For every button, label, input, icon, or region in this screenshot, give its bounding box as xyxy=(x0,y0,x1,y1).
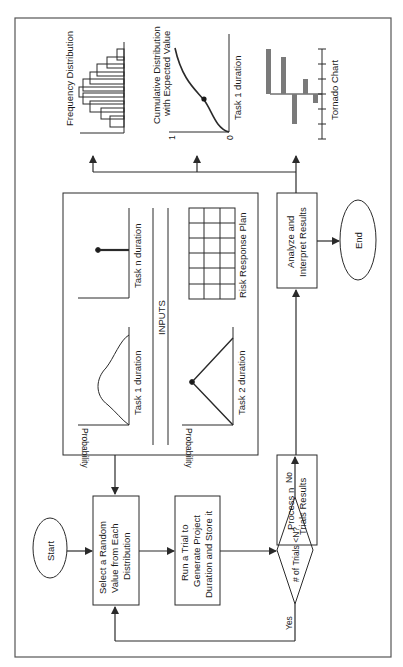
task-n-label: Task n duration xyxy=(132,224,143,288)
start-label: Start xyxy=(45,541,56,561)
task-2-probability-label: Probability xyxy=(184,428,194,468)
expected-value-point xyxy=(201,96,206,101)
task-2-chart xyxy=(182,327,233,425)
run-label-line1: Run a Trial to xyxy=(179,525,190,582)
task-1-probability-label: Probability xyxy=(80,428,90,468)
cumulative-y-max: 1 xyxy=(167,135,177,140)
inputs-title: INPUTS xyxy=(156,300,167,335)
task-n-chart xyxy=(78,208,129,298)
task-2-label: Task 2 duration xyxy=(236,351,247,415)
select-label-line1: Select a Random xyxy=(97,521,108,594)
frequency-distribution-label: Frequency Distribution xyxy=(64,31,75,126)
cumulative-distribution-chart xyxy=(169,34,229,132)
run-label-line2: Generate Project xyxy=(191,515,202,587)
process-label-line2: Trials Results xyxy=(297,478,308,535)
cumulative-y-min: 0 xyxy=(225,135,235,140)
select-label-line3: Distribution xyxy=(121,532,132,580)
analyze-label-line2: Interpret Results xyxy=(297,207,308,277)
select-label-line2: Value from Each xyxy=(109,523,120,593)
process-label-line1: Process n xyxy=(285,488,296,530)
yes-label: Yes xyxy=(284,616,294,630)
tornado-chart-label: Tornado Chart xyxy=(329,59,340,120)
end-label: End xyxy=(353,232,364,249)
task-1-chart xyxy=(78,327,129,425)
task-1-label: Task 1 duration xyxy=(132,351,143,415)
frequency-distribution-chart xyxy=(79,42,124,133)
tornado-chart xyxy=(266,49,326,139)
run-label-line3: Duration and Store it xyxy=(203,511,214,598)
risk-response-plan-label: Risk Response Plan xyxy=(237,212,248,298)
monte-carlo-flowchart: Frequency Distribution Cumulative Distri… xyxy=(0,0,403,667)
no-label: No xyxy=(284,472,294,483)
analyze-label-line1: Analyze and xyxy=(285,216,296,268)
cumulative-distribution-label-line2: with Expected Value xyxy=(161,31,172,117)
risk-response-plan-grid xyxy=(189,208,235,299)
output-connectors xyxy=(93,156,296,193)
cumulative-x-label: Task 1 duration xyxy=(232,56,243,120)
yes-loop-connector xyxy=(115,604,295,641)
